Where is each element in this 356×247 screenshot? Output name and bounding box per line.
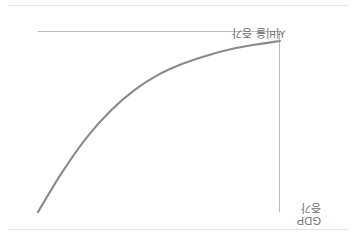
x-axis-title: GDP 증가: [297, 201, 321, 227]
x-axis-title-line2: 증가: [297, 201, 321, 214]
x-axis-title-line1: GDP: [297, 214, 321, 227]
exponential-curve: [38, 31, 280, 212]
y-axis-title: 서비율 증가: [232, 26, 286, 39]
plot-area: [38, 31, 280, 212]
y-axis-title-text: 서비율 증가: [232, 27, 286, 39]
screenshot-root: 서비율 증가 GDP 증가: [0, 0, 356, 247]
chart-plate: 서비율 증가 GDP 증가: [0, 0, 356, 247]
